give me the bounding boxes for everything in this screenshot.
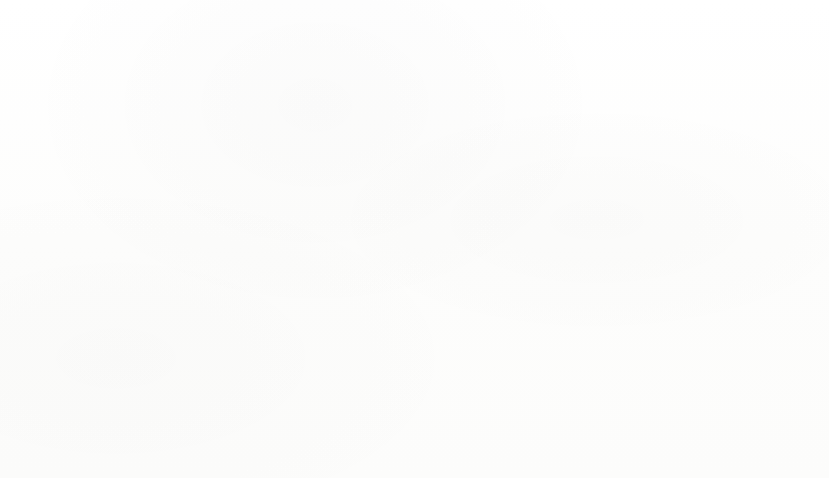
y-axis-tick-label: 0	[67, 429, 76, 446]
legend-item-treatment: Treatment	[663, 222, 827, 242]
legend-label-control: Control	[775, 199, 827, 219]
series-line-treatment	[267, 74, 645, 301]
y-axis-tick-label: 15	[58, 247, 75, 264]
legend-swatch-control-dashed-line	[708, 202, 770, 216]
legend: Experimental Condition Control Treatment	[663, 168, 827, 245]
x-axis-title: Experimental Period	[0, 445, 829, 463]
y-axis-tick-label: 25	[58, 126, 75, 143]
y-axis-tick-label: 10	[58, 307, 75, 324]
y-axis-tick-label: 30	[58, 65, 75, 82]
gridline	[84, 437, 829, 438]
series-line-control	[267, 240, 645, 304]
legend-swatch-treatment-solid-line	[691, 225, 753, 239]
x-axis-tick-mid	[455, 437, 456, 443]
y-axis-tick-label: 5	[67, 368, 76, 385]
legend-title: Experimental Condition	[663, 168, 827, 186]
legend-item-control: Control	[663, 199, 827, 219]
y-axis-tick-label: 35	[58, 5, 75, 22]
chart-screenshot: Burlgary arrest rate (%) 05101520253035 …	[0, 0, 829, 478]
legend-label-treatment: Treatment	[758, 222, 827, 242]
y-axis-tick-label: 20	[58, 186, 75, 203]
